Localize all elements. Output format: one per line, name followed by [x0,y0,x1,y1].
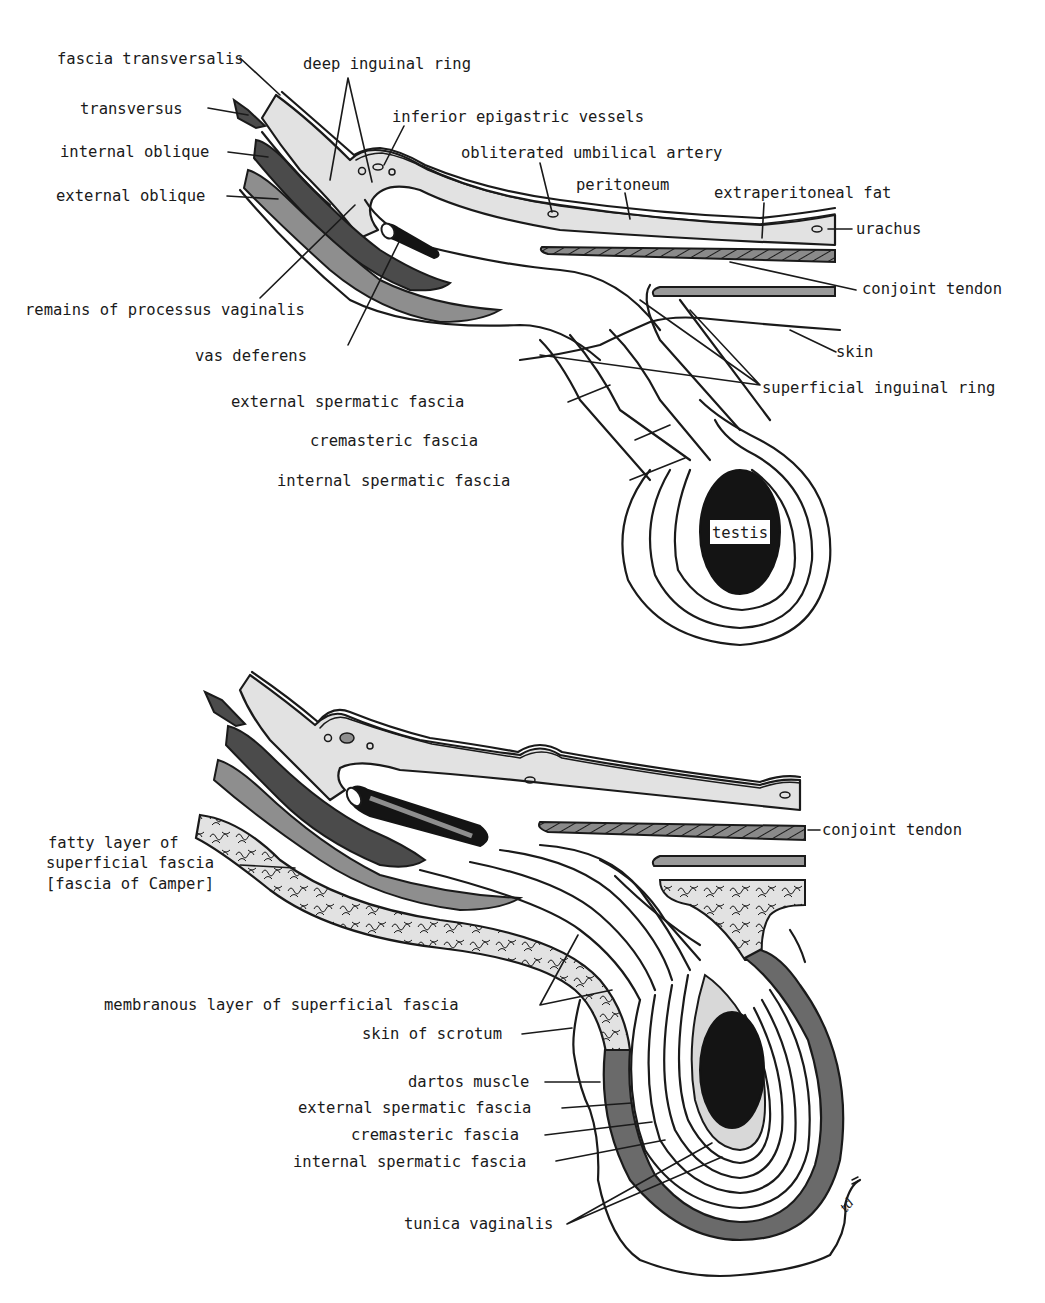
leader-line [556,1140,665,1161]
label-peritoneum: peritoneum [576,176,669,194]
label-fatty-layer-line2: superficial fascia [46,854,214,872]
label-fascia-transversalis: fascia transversalis [57,50,244,68]
label-fatty-layer-line3: [fascia of Camper] [46,875,214,893]
inguinal-ligament-shelf [653,856,805,866]
inguinal-ligament-shelf [653,287,835,296]
label-fatty-layer-line1: fatty layer of [48,834,179,852]
label-internal-spermatic-fascia: internal spermatic fascia [293,1153,526,1171]
label-conjoint-tendon: conjoint tendon [862,280,1002,298]
label-membranous-layer: membranous layer of superficial fascia [104,996,459,1014]
inferior-epigastric-vessel [340,733,354,743]
bottom-diagram: td conjoint tendon fatty layer of superf… [46,672,962,1276]
label-urachus: urachus [856,220,921,238]
label-skin-of-scrotum: skin of scrotum [362,1025,502,1043]
label-cremasteric-fascia: cremasteric fascia [351,1126,519,1144]
label-skin: skin [836,343,873,361]
cord-layer [610,330,710,460]
label-dartos-muscle: dartos muscle [408,1073,529,1091]
label-vas-deferens: vas deferens [195,347,307,365]
inguinal-canal-figure: testis fascia transversalis deep inguina… [0,0,1045,1303]
label-tunica-vaginalis: tunica vaginalis [404,1215,553,1233]
testis-label: testis [712,524,768,542]
fatty-layer-right [660,880,805,960]
label-internal-oblique: internal oblique [60,143,209,161]
label-external-oblique: external oblique [56,187,205,205]
label-transversus: transversus [80,100,183,118]
label-external-spermatic-fascia: external spermatic fascia [298,1099,531,1117]
artist-signature: td [837,1195,857,1215]
leader-line [790,330,836,352]
cord-layer [540,340,650,480]
label-inferior-epigastric-vessels: inferior epigastric vessels [392,108,644,126]
conjoint-tendon [541,247,835,262]
extraperitoneal-fat-band [240,675,800,810]
label-cremasteric-fascia: cremasteric fascia [310,432,478,450]
label-extraperitoneal-fat: extraperitoneal fat [714,184,891,202]
transversus-muscle [205,692,245,726]
cord-layer [647,285,740,430]
label-deep-inguinal-ring: deep inguinal ring [303,55,471,73]
top-diagram: testis fascia transversalis deep inguina… [25,50,1002,645]
fatty-layer-camper [196,815,630,1052]
leader-line [240,58,280,95]
label-internal-spermatic-fascia: internal spermatic fascia [277,472,510,490]
testis [700,1012,764,1128]
label-remains-of-processus-vaginalis: remains of processus vaginalis [25,301,305,319]
leader-line [730,262,856,290]
leader-line [630,458,685,480]
leader-line [635,425,670,440]
label-obliterated-umbilical-artery: obliterated umbilical artery [461,144,722,162]
label-superficial-inguinal-ring: superficial inguinal ring [762,379,995,397]
conjoint-tendon [539,822,805,840]
label-external-spermatic-fascia: external spermatic fascia [231,393,464,411]
label-conjoint-tendon: conjoint tendon [822,821,962,839]
leader-line [522,1028,572,1034]
skin-fold [790,930,805,962]
